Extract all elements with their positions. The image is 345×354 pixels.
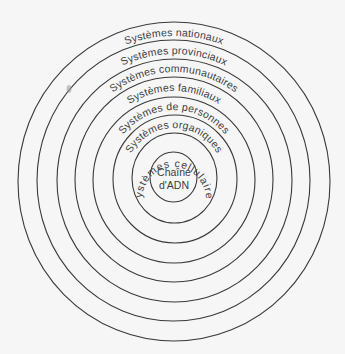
label-national: Systèmes nationaux: [123, 26, 226, 47]
center-label-line1: Chaîne: [157, 166, 191, 178]
scan-smudge: [67, 85, 72, 93]
label-organic: Systèmes organiques: [122, 118, 225, 155]
center-label-line2: d'ADN: [159, 179, 189, 191]
concentric-systems-diagram: Systèmes nationaux Systèmes provinciaux …: [0, 0, 345, 354]
